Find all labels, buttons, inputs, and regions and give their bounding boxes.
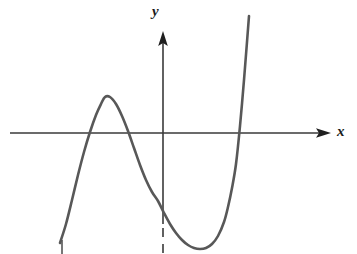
x-axis-label: x: [337, 124, 345, 139]
graph-figure: y x: [0, 0, 357, 254]
y-axis-label: y: [152, 4, 159, 19]
graph-canvas: [0, 0, 357, 254]
